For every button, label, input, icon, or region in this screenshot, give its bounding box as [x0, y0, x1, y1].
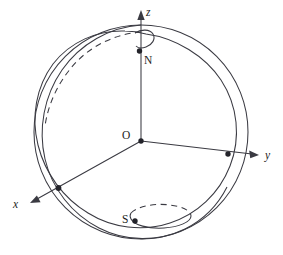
origin-point [138, 138, 143, 143]
x-axis-intersection-point [56, 185, 62, 191]
south-pole-point [132, 218, 137, 223]
south-pole-label: S [122, 213, 128, 225]
north-pole-label: N [144, 54, 153, 66]
tilted-great-circle-solid [35, 31, 237, 228]
y-axis-label: y [264, 149, 271, 162]
north-pole-point [137, 48, 142, 53]
z-axis-label: z [145, 6, 151, 18]
origin-label: O [122, 129, 130, 141]
y-axis-arrowhead [249, 151, 259, 159]
tilted-great-circle-dashed [45, 32, 141, 126]
y-axis-intersection-point [225, 151, 230, 156]
x-axis-arrowhead [30, 195, 41, 203]
x-axis-label: x [12, 198, 19, 210]
sphere-diagram-figure: z y x O N S [0, 0, 283, 255]
sphere-diagram-canvas: z y x O N S [0, 0, 283, 255]
x-axis-line [37, 141, 141, 199]
z-axis-arrowhead [137, 10, 144, 20]
south-pole-small-circle-dashed [131, 204, 191, 216]
